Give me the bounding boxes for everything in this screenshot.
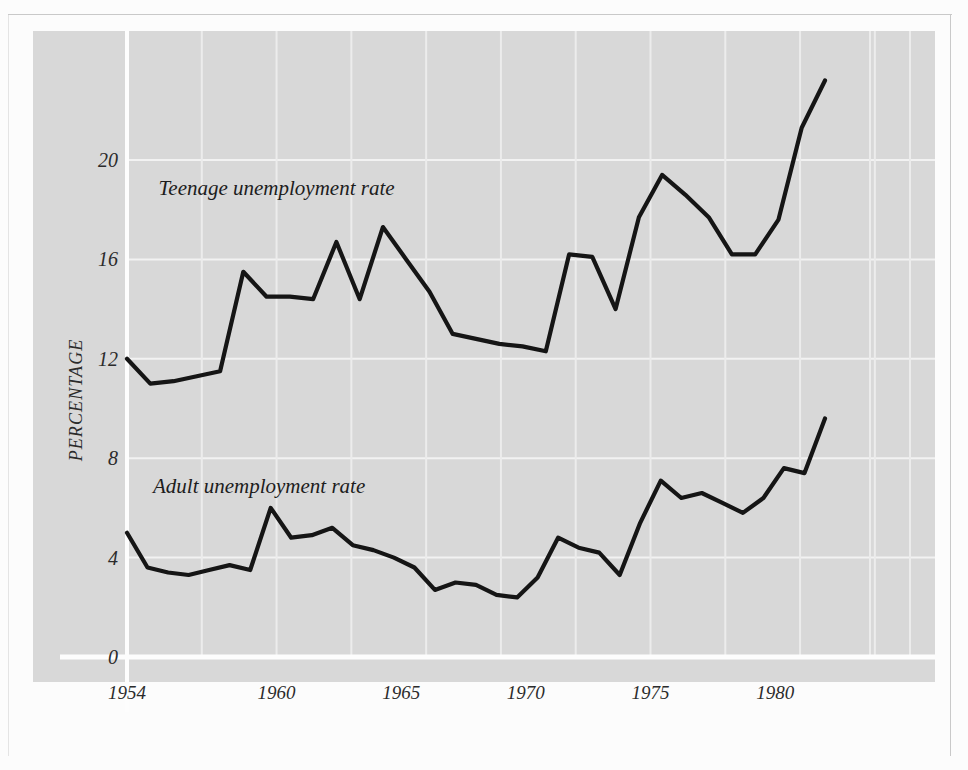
x-tick-label-1965: 1965: [382, 682, 420, 703]
x-tick-label-1960: 1960: [258, 682, 297, 703]
x-tick-label-1954: 1954: [108, 682, 147, 703]
data-series-group: [127, 81, 825, 598]
x-tick-label-1980: 1980: [756, 682, 795, 703]
x-tick-labels: 195419601965197019751980: [108, 682, 795, 703]
chart-page: 048121620 195419601965197019751980 Teena…: [0, 0, 968, 770]
y-axis-title: PERCENTAGE: [66, 339, 86, 463]
y-tick-labels: 048121620: [98, 149, 118, 668]
unemployment-line-chart: 048121620 195419601965197019751980 Teena…: [0, 0, 968, 770]
series-line-teenage: [127, 81, 825, 384]
y-tick-label-4: 4: [108, 547, 118, 569]
axis-lines: [60, 31, 935, 712]
y-tick-label-8: 8: [108, 447, 118, 469]
y-tick-label-16: 16: [98, 248, 118, 270]
series-annotations: Teenage unemployment rateAdult unemploym…: [151, 176, 395, 498]
series-line-adult: [127, 418, 825, 597]
annotation-adult: Adult unemployment rate: [151, 474, 365, 498]
annotation-teenage: Teenage unemployment rate: [159, 176, 395, 200]
y-tick-label-20: 20: [98, 149, 118, 171]
x-tick-label-1970: 1970: [507, 682, 546, 703]
y-tick-label-0: 0: [108, 646, 118, 668]
y-tick-label-12: 12: [98, 348, 118, 370]
x-tick-label-1975: 1975: [632, 682, 670, 703]
